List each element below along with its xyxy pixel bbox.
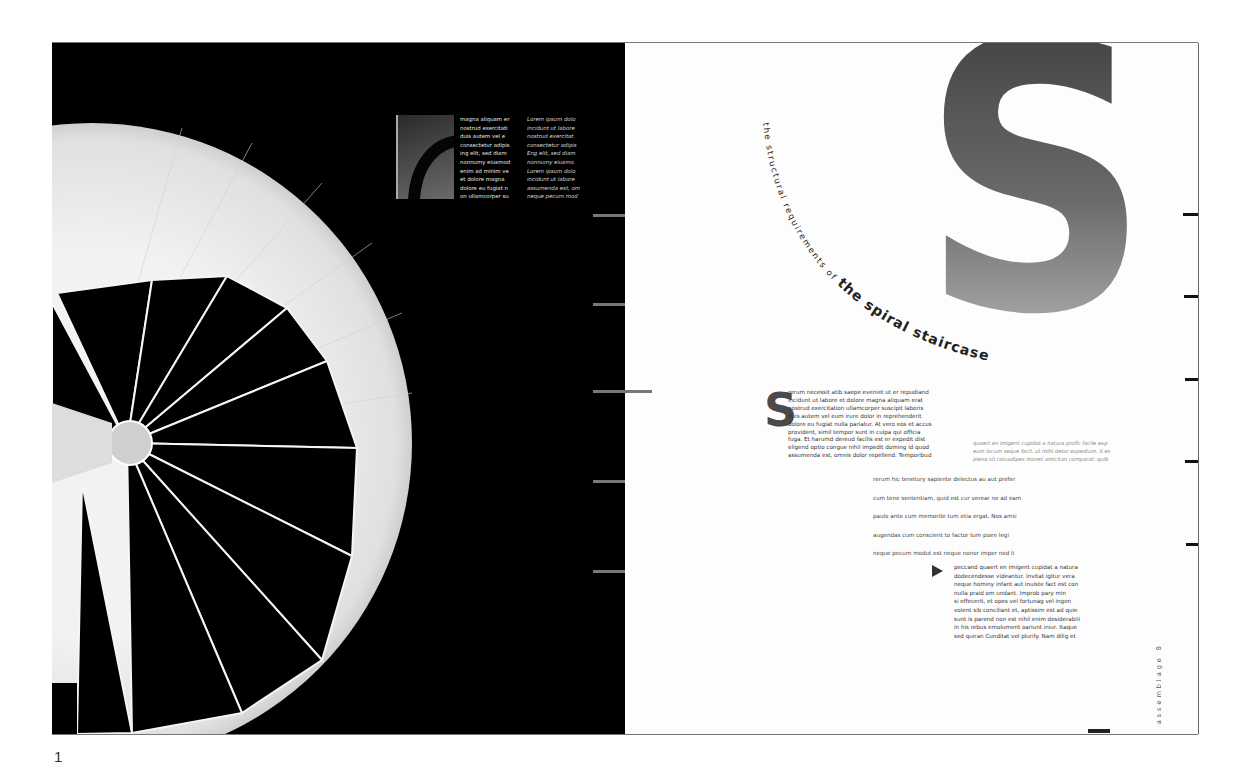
left-page-photo: magna aliquam ernostrud exercitatiduis a… <box>52 43 625 734</box>
margin-tick <box>1184 295 1198 298</box>
page-number: 1 <box>54 748 62 765</box>
margin-tick <box>1183 213 1198 216</box>
body-text-4: peccand quaert en imigent cupidat a natu… <box>954 563 1094 640</box>
right-page: S the structural requirements of the spi… <box>625 43 1199 734</box>
margin-tick <box>593 570 625 573</box>
magazine-spread: magna aliquam ernostrud exercitatiduis a… <box>52 42 1198 735</box>
left-text-column-1: magna aliquam ernostrud exercitatiduis a… <box>460 115 526 201</box>
left-text-column-2: Lorem ipsum doloincidunt ut laborenostru… <box>527 115 593 201</box>
margin-tick <box>1185 378 1198 381</box>
curved-title: the structural requirements of the spira… <box>625 43 1198 443</box>
margin-tick <box>593 390 625 393</box>
arrow-right-icon <box>932 565 943 577</box>
body-text-1: rerum necessit atib saepe eveniet ut er … <box>788 389 948 460</box>
title-part-2: the spiral staircase <box>835 275 992 364</box>
margin-tick <box>1186 543 1198 546</box>
margin-tick <box>1185 460 1198 463</box>
svg-text:the structural requirements of: the structural requirements of the spira… <box>761 122 991 364</box>
folio-bar <box>1088 729 1110 733</box>
body-text-2: quaert en imigent cupidat a natura profi… <box>973 439 1113 463</box>
margin-tick <box>593 480 625 483</box>
title-part-1: the structural requirements of <box>761 122 842 285</box>
margin-tick <box>593 303 625 306</box>
margin-tick <box>593 214 625 217</box>
thumbnail-image <box>396 115 454 199</box>
folio-label: assemblage 8 <box>1155 643 1163 724</box>
body-text-3: rerum hic tenetury sapiente delectus au … <box>873 476 1063 569</box>
